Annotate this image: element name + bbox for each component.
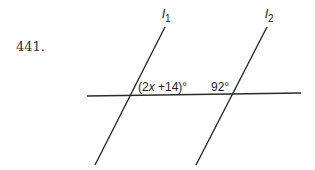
- transversal-line: [87, 93, 301, 96]
- angle-label-right: 92°: [211, 80, 229, 94]
- parallel-lines-diagram: l1 l2 (2x +14)° 92°: [0, 0, 315, 170]
- line-l2: [196, 27, 267, 165]
- label-l1: l1: [162, 6, 171, 24]
- angle-label-left: (2x +14)°: [138, 80, 187, 94]
- label-l2: l2: [265, 6, 274, 24]
